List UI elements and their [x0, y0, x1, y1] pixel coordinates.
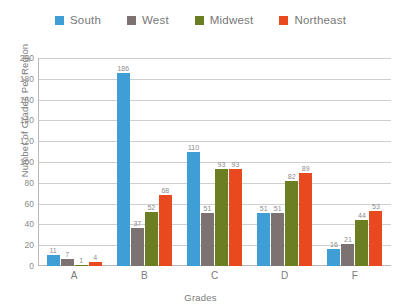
bar-value-label: 93: [218, 161, 226, 168]
bar-northeast-a[interactable]: 4: [89, 262, 102, 266]
bar-value-label: 51: [260, 205, 268, 212]
y-tick-label: 160: [4, 95, 34, 105]
bar-value-label: 89: [302, 165, 310, 172]
bar-northeast-c[interactable]: 93: [229, 169, 242, 266]
bar-group-d: 51518289: [250, 58, 320, 266]
y-tick-label: 140: [4, 115, 34, 125]
bar-south-c[interactable]: 110: [187, 152, 200, 266]
bar-group-b: 186375268: [109, 58, 179, 266]
legend-label-west: West: [142, 14, 169, 26]
bar-west-b[interactable]: 37: [131, 228, 144, 266]
y-axis-ticks: 200180160140120100806040200: [4, 58, 34, 266]
y-tick-label: 180: [4, 74, 34, 84]
plot-area: 200180160140120100806040200 117141863752…: [38, 58, 390, 266]
x-label-f: F: [320, 270, 390, 281]
bar-value-label: 93: [232, 161, 240, 168]
bar-northeast-b[interactable]: 68: [159, 195, 172, 266]
y-tick-label: 120: [4, 136, 34, 146]
y-tick-label: 100: [4, 157, 34, 167]
chart-legend: South West Midwest Northeast: [0, 14, 401, 26]
bar-group-a: 11714: [39, 58, 109, 266]
bar-value-label: 110: [188, 144, 199, 151]
bar-midwest-a[interactable]: 1: [75, 265, 88, 266]
legend-item-west[interactable]: West: [127, 14, 169, 26]
bar-south-b[interactable]: 186: [117, 73, 130, 266]
x-axis-labels: ABCDF: [39, 270, 390, 281]
bar-northeast-d[interactable]: 89: [299, 173, 312, 266]
y-tick-label: 0: [4, 261, 34, 271]
bar-value-label: 53: [372, 203, 380, 210]
bar-value-label: 82: [288, 173, 296, 180]
x-axis-title: Grades: [0, 292, 401, 303]
bar-south-f[interactable]: 16: [327, 249, 340, 266]
bar-value-label: 52: [147, 204, 155, 211]
bar-south-d[interactable]: 51: [257, 213, 270, 266]
legend-item-midwest[interactable]: Midwest: [195, 14, 254, 26]
bar-chart: South West Midwest Northeast Number of G…: [0, 0, 401, 308]
bar-value-label: 186: [117, 65, 129, 72]
bar-group-c: 110519393: [179, 58, 249, 266]
bar-west-d[interactable]: 51: [271, 213, 284, 266]
x-label-c: C: [179, 270, 249, 281]
bar-west-f[interactable]: 21: [341, 244, 354, 266]
bar-value-label: 7: [65, 251, 69, 258]
bar-value-label: 51: [274, 205, 282, 212]
bar-west-c[interactable]: 51: [201, 213, 214, 266]
legend-swatch-south: [55, 16, 64, 25]
bar-value-label: 1: [79, 257, 83, 264]
legend-label-south: South: [70, 14, 101, 26]
bar-south-a[interactable]: 11: [47, 255, 60, 266]
legend-item-northeast[interactable]: Northeast: [279, 14, 346, 26]
bar-midwest-c[interactable]: 93: [215, 169, 228, 266]
legend-swatch-west: [127, 16, 136, 25]
bar-value-label: 11: [49, 247, 56, 254]
bar-value-label: 44: [358, 212, 366, 219]
x-label-d: D: [250, 270, 320, 281]
x-label-a: A: [39, 270, 109, 281]
bar-value-label: 51: [204, 205, 212, 212]
bar-midwest-b[interactable]: 52: [145, 212, 158, 266]
bar-groups: 117141863752681105193935151828916214453: [39, 58, 390, 266]
bar-value-label: 16: [330, 241, 338, 248]
x-label-b: B: [109, 270, 179, 281]
legend-swatch-northeast: [279, 16, 288, 25]
bar-midwest-d[interactable]: 82: [285, 181, 298, 266]
bar-northeast-f[interactable]: 53: [369, 211, 382, 266]
y-tick-label: 80: [4, 178, 34, 188]
y-tick-label: 20: [4, 240, 34, 250]
bar-value-label: 68: [161, 187, 169, 194]
legend-swatch-midwest: [195, 16, 204, 25]
bar-group-f: 16214453: [320, 58, 390, 266]
legend-item-south[interactable]: South: [55, 14, 101, 26]
legend-label-midwest: Midwest: [210, 14, 254, 26]
bar-west-a[interactable]: 7: [61, 259, 74, 266]
bar-value-label: 4: [93, 254, 97, 261]
bar-value-label: 37: [133, 220, 141, 227]
bar-midwest-f[interactable]: 44: [355, 220, 368, 266]
bar-value-label: 21: [344, 236, 352, 243]
y-tick-label: 40: [4, 219, 34, 229]
y-tick-label: 200: [4, 53, 34, 63]
legend-label-northeast: Northeast: [294, 14, 346, 26]
y-tick-label: 60: [4, 199, 34, 209]
